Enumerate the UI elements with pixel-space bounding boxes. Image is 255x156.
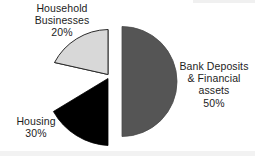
pie-chart-figure: Household Businesses 20% Housing 30% Ban… [0, 0, 255, 156]
pie-label-bank-deposits: Bank Deposits & Financial assets 50% [176, 60, 252, 109]
pie-label-household-businesses: Household Businesses 20% [16, 2, 108, 39]
pie-label-housing: Housing 30% [4, 115, 68, 139]
pie-slice-bank-deposits [122, 27, 177, 137]
scan-edge-bottom [0, 151, 255, 156]
